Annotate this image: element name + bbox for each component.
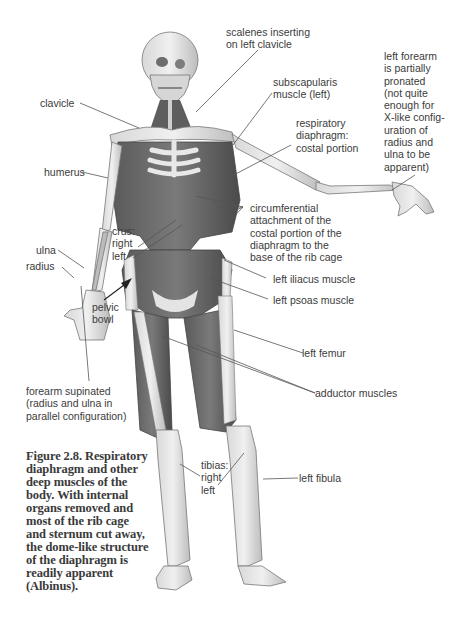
label-humerus: humerus (44, 166, 85, 178)
lower-legs (156, 426, 286, 590)
figure-caption: Figure 2.8. Respiratory diaphragm and ot… (26, 450, 151, 593)
skull (142, 32, 198, 103)
label-diaphragm-costal: respiratory diaphragm: costal portion (296, 117, 358, 154)
label-crus: crus: right left (112, 225, 135, 262)
label-forearm-supinated: forearm supinated (radius and ulna in pa… (26, 385, 126, 422)
label-left-iliacus: left iliacus muscle (273, 273, 355, 285)
label-left-psoas: left psoas muscle (273, 294, 354, 306)
label-clavicle: clavicle (40, 97, 74, 109)
label-pelvic-bowl: pelvic bowl (92, 301, 119, 326)
label-left-fibula: left fibula (299, 472, 341, 484)
label-tibias: tibias: right left (201, 459, 228, 496)
label-left-forearm: left forearm is partially pronated (not … (384, 50, 445, 173)
thighs (132, 296, 236, 440)
label-subscapularis: subscapularis muscle (left) (273, 76, 337, 101)
label-circumferential: circumferential attachment of the costal… (250, 202, 342, 263)
label-ulna: ulna (36, 244, 56, 256)
label-left-femur: left femur (302, 347, 346, 359)
label-scalenes: scalenes inserting on left clavicle (226, 26, 310, 51)
label-adductor-muscles: adductor muscles (315, 387, 397, 399)
label-radius: radius (26, 260, 55, 272)
